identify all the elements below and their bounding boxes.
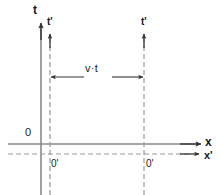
t-prime-left-label: t' — [47, 17, 53, 27]
galilean-transformation-diagram: t t' t' v·t 0 x x' 0' 0' — [0, 0, 222, 195]
t-prime-right-label: t' — [141, 17, 147, 27]
origin-label: 0 — [25, 127, 31, 138]
origin-prime-left-label: 0' — [51, 159, 58, 169]
x-axis-label: x — [205, 136, 212, 148]
t-axis-label: t — [33, 4, 37, 16]
x-prime-axis-label: x' — [204, 150, 213, 161]
diagram-canvas — [0, 0, 222, 195]
vt-distance-label: v·t — [85, 63, 98, 74]
origin-prime-right-label: 0' — [146, 159, 153, 169]
